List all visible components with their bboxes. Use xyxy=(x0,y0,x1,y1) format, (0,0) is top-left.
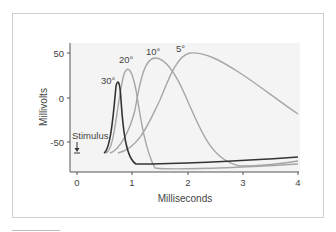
curve-label-30: 30° xyxy=(101,75,116,86)
x-tick-4: 4 xyxy=(295,177,300,188)
y-axis-title: Millivolts xyxy=(38,88,49,126)
x-tick-1: 1 xyxy=(129,177,134,188)
curve-label-5: 5° xyxy=(176,43,185,54)
y-tick-50: 50 xyxy=(53,48,64,59)
y-tick-minus50: -50 xyxy=(50,137,64,148)
curve-label-10: 10° xyxy=(146,46,161,57)
y-tick-0: 0 xyxy=(59,93,64,104)
x-tick-3: 3 xyxy=(240,177,245,188)
x-axis-title: Milliseconds xyxy=(158,193,212,204)
x-tick-0: 0 xyxy=(74,177,79,188)
curve-label-20: 20° xyxy=(119,54,134,65)
action-potential-chart: 50 0 -50 0 1 2 3 4 Milliseconds Millivol… xyxy=(0,0,336,232)
stimulus-label: Stimulus xyxy=(72,130,109,141)
x-tick-2: 2 xyxy=(185,177,190,188)
